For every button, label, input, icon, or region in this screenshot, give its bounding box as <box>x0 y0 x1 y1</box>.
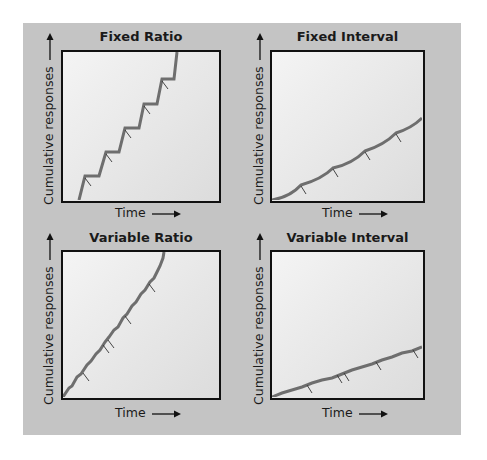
y-axis-label-text: Cumulative responses <box>41 66 56 205</box>
x-axis-label-text: Time <box>322 405 353 420</box>
arrow-icon <box>45 32 55 62</box>
chart-title-fixed-ratio: Fixed Ratio <box>61 29 221 44</box>
arrow-icon <box>45 232 55 262</box>
x-axis-label: Time <box>322 205 389 220</box>
arrow-icon <box>357 409 389 419</box>
y-axis-label-text: Cumulative responses <box>251 66 266 205</box>
curve-variable-interval <box>272 252 422 397</box>
plot-fixed-interval <box>270 50 425 203</box>
x-axis-label-text: Time <box>322 205 353 220</box>
y-axis-label: Cumulative responses <box>251 32 266 205</box>
y-axis-label: Cumulative responses <box>41 232 56 405</box>
x-axis-label-text: Time <box>115 405 146 420</box>
x-axis-label: Time <box>115 405 182 420</box>
plot-fixed-ratio <box>61 50 221 203</box>
arrow-icon <box>150 209 182 219</box>
arrow-icon <box>255 232 265 262</box>
curve-fixed-interval <box>272 52 422 200</box>
x-axis-label-text: Time <box>115 205 146 220</box>
curve-variable-ratio <box>63 252 218 397</box>
arrow-icon <box>150 409 182 419</box>
arrow-icon <box>357 209 389 219</box>
plot-variable-ratio <box>61 250 221 400</box>
chart-title-variable-interval: Variable Interval <box>270 230 425 245</box>
chart-title-variable-ratio: Variable Ratio <box>61 230 221 245</box>
chart-title-fixed-interval: Fixed Interval <box>270 29 425 44</box>
curve-fixed-ratio <box>63 52 218 200</box>
y-axis-label: Cumulative responses <box>41 32 56 205</box>
x-axis-label: Time <box>322 405 389 420</box>
plot-variable-interval <box>270 250 425 400</box>
y-axis-label-text: Cumulative responses <box>41 266 56 405</box>
arrow-icon <box>255 32 265 62</box>
y-axis-label-text: Cumulative responses <box>251 266 266 405</box>
x-axis-label: Time <box>115 205 182 220</box>
y-axis-label: Cumulative responses <box>251 232 266 405</box>
